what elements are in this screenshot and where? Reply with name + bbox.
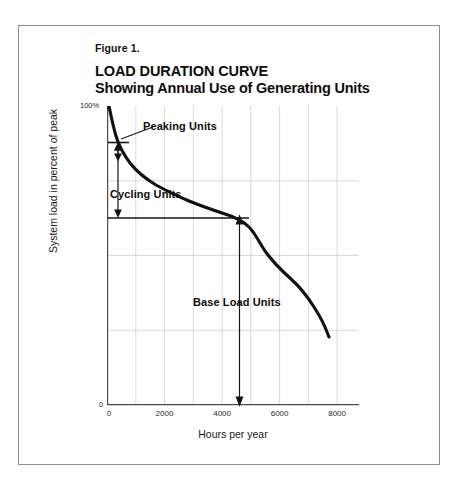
x-tick-4000: 4000	[213, 409, 231, 418]
caption-block: Figure 1. LOAD DURATION CURVE Showing An…	[95, 42, 395, 97]
load-duration-curve-chart	[107, 106, 359, 407]
y-axis-bottom-tick-label: 0	[99, 400, 103, 409]
x-axis-title: Hours per year	[107, 428, 359, 440]
page-title: LOAD DURATION CURVE	[95, 63, 395, 80]
y-axis-top-tick-label: 100%	[80, 101, 99, 110]
annotation-cycling-units: Cycling Units	[110, 188, 182, 200]
x-axis-tick-labels: 0 2000 4000 6000 8000	[107, 409, 367, 423]
plot-area: Peaking Units Cycling Units Base Load Un…	[107, 106, 359, 405]
annotation-base-load-units: Base Load Units	[193, 296, 281, 308]
page-subtitle: Showing Annual Use of Generating Units	[95, 80, 395, 97]
x-tick-6000: 6000	[271, 409, 289, 418]
x-tick-0: 0	[107, 409, 111, 418]
x-tick-8000: 8000	[328, 409, 346, 418]
arrow-base-load-band	[236, 216, 242, 405]
figure-page: Figure 1. LOAD DURATION CURVE Showing An…	[0, 0, 458, 494]
y-axis-title: System load in percent of peak	[47, 96, 59, 266]
figure-number: Figure 1.	[95, 42, 395, 54]
x-tick-2000: 2000	[156, 409, 174, 418]
annotation-peaking-units: Peaking Units	[143, 120, 217, 132]
